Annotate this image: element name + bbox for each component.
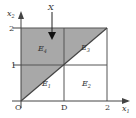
- y-tick-label-2: 2: [9, 24, 14, 33]
- y-axis-label: x2: [7, 9, 15, 19]
- arrow-label-X: X: [47, 3, 54, 12]
- origin-label: O: [15, 103, 22, 112]
- x-axis-label: x1: [122, 104, 130, 114]
- x-tick-label-2: 2: [105, 103, 110, 112]
- region-label-E2: E2: [81, 79, 91, 89]
- y-axis-arrow-icon: [18, 11, 24, 19]
- x-tick-label-D: D: [61, 103, 67, 112]
- y-tick-label-1: 1: [11, 61, 16, 70]
- region-label-E1: E1: [41, 79, 51, 89]
- diagram-canvas: x2 2 1 O D 2 x1 X E4 E3 E1 E2: [0, 0, 136, 118]
- region-label-E3: E3: [80, 43, 90, 53]
